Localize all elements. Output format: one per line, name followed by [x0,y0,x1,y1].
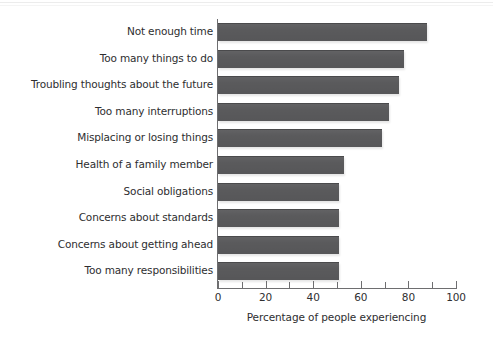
chart-page: Not enough timeToo many things to doTrou… [0,0,493,338]
bar [218,129,382,147]
x-axis-tick-label: 60 [354,291,367,303]
x-axis-minor-tick [242,282,243,289]
category-label: Misplacing or losing things [13,129,218,146]
x-axis-tick-label: 80 [402,291,415,303]
bar [218,262,339,280]
bar [218,50,404,68]
category-label: Concerns about standards [13,209,218,226]
category-label: Concerns about getting ahead [13,236,218,253]
bar [218,76,399,94]
category-label: Health of a family member [13,156,218,173]
x-axis-tick-label: 40 [307,291,320,303]
x-axis-minor-tick [385,282,386,289]
category-label: Too many responsibilities [13,262,218,279]
bar-row: Misplacing or losing things [0,125,493,151]
bar-chart-plot-area: Not enough timeToo many things to doTrou… [0,0,493,338]
bar-row: Social obligations [0,179,493,205]
category-label: Too many interruptions [13,103,218,120]
x-axis-minor-tick [432,282,433,289]
bar-row: Troubling thoughts about the future [0,72,493,98]
x-axis-tick-label: 20 [259,291,272,303]
category-label: Not enough time [13,23,218,40]
bar [218,183,339,201]
category-label: Too many things to do [13,50,218,67]
x-axis-major-tick [408,281,409,289]
bar [218,23,427,41]
x-axis-major-tick [313,281,314,289]
x-axis-major-tick [361,281,362,289]
x-axis-title: Percentage of people experiencing [217,311,456,323]
bar-row: Too many interruptions [0,99,493,125]
bar [218,156,344,174]
x-axis-tick-label: 100 [446,291,466,303]
x-axis-major-tick [266,281,267,289]
bar [218,209,339,227]
bar-row: Health of a family member [0,152,493,178]
category-label: Troubling thoughts about the future [13,76,218,93]
x-axis-major-tick [456,281,457,289]
bar-row: Concerns about getting ahead [0,232,493,258]
bar-row: Too many things to do [0,46,493,72]
bar-row: Too many responsibilities [0,258,493,284]
x-axis-major-tick [218,281,219,289]
bar-row: Not enough time [0,19,493,45]
category-label: Social obligations [13,183,218,200]
bar [218,236,339,254]
bar-row: Concerns about standards [0,205,493,231]
bar [218,103,389,121]
x-axis-tick-label: 0 [215,291,222,303]
x-axis-minor-tick [337,282,338,289]
x-axis-minor-tick [289,282,290,289]
